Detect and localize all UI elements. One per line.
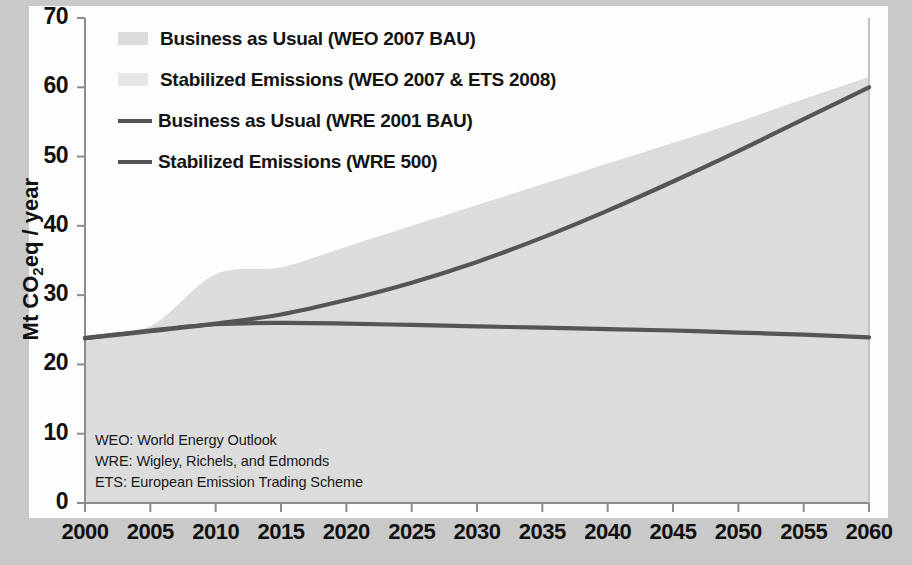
x-tick-2040: 2040 (573, 519, 643, 545)
x-tick-2000: 2000 (50, 519, 120, 545)
x-tick-2060: 2060 (834, 519, 904, 545)
y-tick-50: 50 (8, 142, 68, 169)
legend-area-swatch-icon (118, 32, 148, 45)
legend-item-label: Stabilized Emissions (WRE 500) (158, 151, 437, 173)
chart-legend: Business as Usual (WEO 2007 BAU)Stabiliz… (118, 18, 638, 182)
legend-item-3[interactable]: Business as Usual (WRE 2001 BAU) (118, 100, 638, 141)
footnote-line-3: ETS: European Emission Trading Scheme (95, 472, 363, 493)
legend-line-swatch-icon (118, 119, 152, 123)
footnote-line-2: WRE: Wigley, Richels, and Edmonds (95, 451, 363, 472)
legend-item-4[interactable]: Stabilized Emissions (WRE 500) (118, 141, 638, 182)
x-tick-2025: 2025 (377, 519, 447, 545)
x-tick-2055: 2055 (769, 519, 839, 545)
y-tick-0: 0 (8, 488, 68, 515)
y-tick-60: 60 (8, 72, 68, 99)
y-tick-20: 20 (8, 349, 68, 376)
legend-item-label: Business as Usual (WRE 2001 BAU) (158, 110, 473, 132)
y-tick-10: 10 (8, 419, 68, 446)
chart-footnotes: WEO: World Energy OutlookWRE: Wigley, Ri… (95, 430, 363, 493)
x-tick-2010: 2010 (181, 519, 251, 545)
y-tick-40: 40 (8, 211, 68, 238)
x-tick-2015: 2015 (246, 519, 316, 545)
footnote-line-1: WEO: World Energy Outlook (95, 430, 363, 451)
legend-item-label: Business as Usual (WEO 2007 BAU) (160, 28, 476, 50)
x-tick-2050: 2050 (703, 519, 773, 545)
y-axis-label: Mt CO2eq / year (18, 159, 46, 359)
y-tick-70: 70 (8, 3, 68, 30)
legend-item-label: Stabilized Emissions (WEO 2007 & ETS 200… (160, 69, 556, 91)
x-tick-2020: 2020 (311, 519, 381, 545)
legend-line-swatch-icon (118, 160, 152, 164)
legend-area-swatch-icon (118, 73, 148, 86)
legend-item-1[interactable]: Business as Usual (WEO 2007 BAU) (118, 18, 638, 59)
y-tick-30: 30 (8, 280, 68, 307)
x-tick-2030: 2030 (442, 519, 512, 545)
x-tick-2045: 2045 (638, 519, 708, 545)
legend-item-2[interactable]: Stabilized Emissions (WEO 2007 & ETS 200… (118, 59, 638, 100)
x-tick-2005: 2005 (115, 519, 185, 545)
x-tick-2035: 2035 (507, 519, 577, 545)
